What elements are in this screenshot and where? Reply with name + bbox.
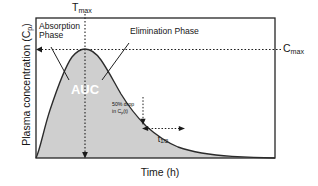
tmax-label-subscript: max: [78, 7, 91, 15]
cmax-label-subscript: max: [291, 48, 304, 56]
x-axis-label: Time (h): [120, 167, 200, 178]
thalf-label: t1/2: [158, 135, 169, 144]
cmax-label: Cmax: [283, 43, 304, 56]
y-axis-label-text: Plasma concentration (C: [20, 31, 32, 146]
auc-shaded-area: [36, 49, 275, 158]
absorption-phase-label: AbsorptionPhase: [39, 22, 80, 40]
cmax-arrowhead-icon: [36, 47, 42, 53]
auc-label: AUC: [71, 83, 99, 97]
half-drop-label-line1: 50% drop: [112, 101, 134, 108]
half-drop-label-line2: in Cp(t): [112, 108, 134, 116]
thalf-label-subscript: 1/2: [160, 138, 168, 144]
tmax-label: Tmax: [72, 2, 92, 15]
elimination-leader-line: [102, 43, 129, 80]
y-axis-label-close: ): [20, 23, 32, 27]
half-drop-label-line2-tail: (t): [123, 108, 128, 114]
half-drop-label: 50% dropin Cp(t): [112, 101, 134, 116]
thalf-arrowhead-right-icon: [179, 126, 185, 131]
pk-figure: Plasma concentration (Cp) Time (h) Tmax …: [0, 0, 318, 186]
y-axis-label: Plasma concentration (Cp): [21, 5, 34, 165]
absorption-phase-label-line2: Phase: [39, 31, 80, 40]
absorption-leader-line: [51, 47, 69, 80]
cmax-label-text: C: [283, 42, 291, 54]
y-axis-label-subscript: p: [26, 27, 34, 31]
elimination-phase-label: Elimination Phase: [130, 27, 199, 36]
half-drop-label-line2-text: in C: [112, 108, 121, 114]
